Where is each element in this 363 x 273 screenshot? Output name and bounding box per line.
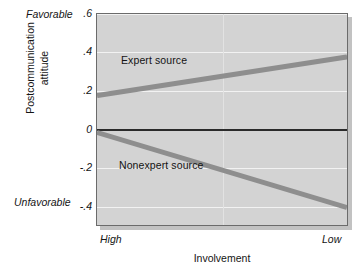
y-tick-label-3: 0 bbox=[64, 123, 92, 135]
series-label-expert-source: Expert source bbox=[121, 54, 187, 66]
y-tick-label-5: -.4 bbox=[64, 200, 92, 212]
y-tick-label-1: .4 bbox=[64, 45, 92, 57]
zero-reference-line bbox=[97, 129, 347, 131]
y-tick-label-2: .2 bbox=[64, 84, 92, 96]
y-tick-label-4: -.2 bbox=[64, 161, 92, 173]
gridline-y-1 bbox=[97, 52, 347, 53]
y-axis-title-line-2: attitude bbox=[37, 0, 51, 148]
y-tick-label-0: .6 bbox=[64, 7, 92, 19]
gridline-y-0 bbox=[97, 14, 347, 15]
x-axis-title: Involvement bbox=[96, 252, 348, 264]
y-axis-title-line-1: Postcommunication bbox=[23, 0, 37, 148]
y-axis-title: Postcommunication attitude bbox=[23, 0, 51, 148]
gridline-x-mid bbox=[223, 14, 224, 225]
x-tick-label-high: High bbox=[100, 233, 122, 245]
y-axis-tick-labels: .6 .4 .2 0 -.2 -.4 bbox=[62, 0, 92, 273]
plot-panel: Expert source Nonexpert source bbox=[96, 13, 348, 226]
chart-figure: Postcommunication attitude Favorable Unf… bbox=[0, 0, 363, 273]
gridline-y-5 bbox=[97, 207, 347, 208]
series-label-nonexpert-source: Nonexpert source bbox=[119, 159, 203, 171]
x-tick-label-low: Low bbox=[322, 233, 341, 245]
